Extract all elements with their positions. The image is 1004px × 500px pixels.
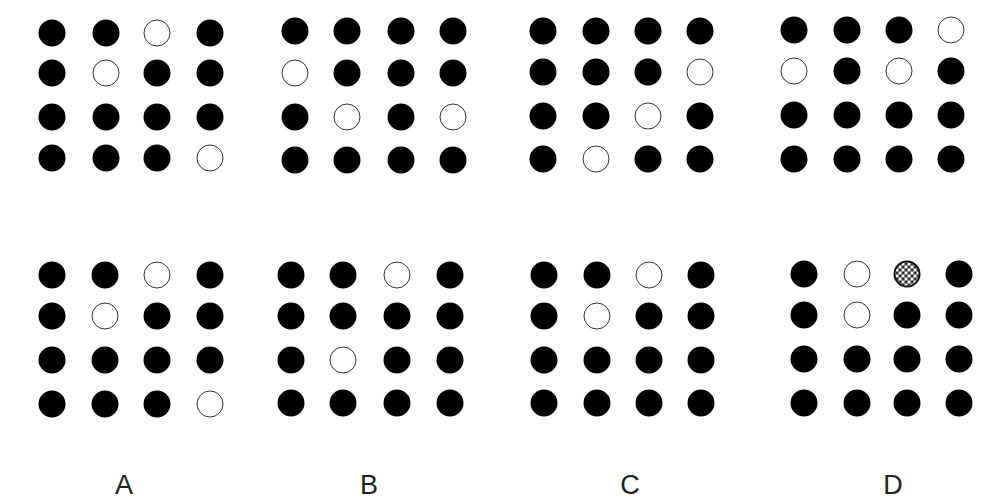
filled-circle-icon xyxy=(530,146,557,173)
filled-circle-icon xyxy=(834,146,861,173)
option-label-d[interactable]: D xyxy=(883,472,903,499)
filled-circle-icon xyxy=(781,146,808,173)
filled-circle-icon xyxy=(39,391,66,418)
filled-circle-icon xyxy=(39,20,66,47)
filled-circle-icon xyxy=(687,18,714,45)
hollow-circle-icon xyxy=(886,58,913,85)
filled-circle-icon xyxy=(894,390,921,417)
hollow-circle-icon xyxy=(93,60,120,87)
filled-circle-icon xyxy=(197,104,224,131)
filled-circle-icon xyxy=(584,347,611,374)
filled-circle-icon xyxy=(688,303,715,330)
filled-circle-icon xyxy=(584,390,611,417)
filled-circle-icon xyxy=(384,303,411,330)
filled-circle-icon xyxy=(844,390,871,417)
hollow-circle-icon xyxy=(197,145,224,172)
filled-circle-icon xyxy=(282,147,309,174)
filled-circle-icon xyxy=(781,17,808,44)
filled-circle-icon xyxy=(282,18,309,45)
filled-circle-icon xyxy=(440,60,467,87)
filled-circle-icon xyxy=(894,346,921,373)
filled-circle-icon xyxy=(197,347,224,374)
hollow-circle-icon xyxy=(282,60,309,87)
filled-circle-icon xyxy=(384,347,411,374)
filled-circle-icon xyxy=(39,145,66,172)
filled-circle-icon xyxy=(282,104,309,131)
filled-circle-icon xyxy=(530,18,557,45)
filled-circle-icon xyxy=(440,18,467,45)
filled-circle-icon xyxy=(687,146,714,173)
filled-circle-icon xyxy=(93,145,120,172)
filled-circle-icon xyxy=(946,390,973,417)
hollow-circle-icon xyxy=(781,58,808,85)
filled-circle-icon xyxy=(39,347,66,374)
filled-circle-icon xyxy=(531,303,558,330)
filled-circle-icon xyxy=(437,390,464,417)
filled-circle-icon xyxy=(688,347,715,374)
filled-circle-icon xyxy=(440,147,467,174)
filled-circle-icon xyxy=(197,262,224,289)
filled-circle-icon xyxy=(791,346,818,373)
filled-circle-icon xyxy=(384,390,411,417)
filled-circle-icon xyxy=(92,262,119,289)
option-label-b[interactable]: B xyxy=(360,472,378,499)
option-label-a[interactable]: A xyxy=(115,472,133,499)
filled-circle-icon xyxy=(197,60,224,87)
filled-circle-icon xyxy=(93,20,120,47)
filled-circle-icon xyxy=(39,303,66,330)
filled-circle-icon xyxy=(197,20,224,47)
filled-circle-icon xyxy=(39,262,66,289)
filled-circle-icon xyxy=(938,146,965,173)
filled-circle-icon xyxy=(583,103,610,130)
filled-circle-icon xyxy=(530,59,557,86)
filled-circle-icon xyxy=(388,104,415,131)
filled-circle-icon xyxy=(946,302,973,329)
hollow-circle-icon xyxy=(197,391,224,418)
filled-circle-icon xyxy=(330,303,357,330)
filled-circle-icon xyxy=(844,346,871,373)
hollow-circle-icon xyxy=(330,347,357,374)
filled-circle-icon xyxy=(531,390,558,417)
filled-circle-icon xyxy=(791,261,818,288)
filled-circle-icon xyxy=(583,18,610,45)
filled-circle-icon xyxy=(636,390,663,417)
filled-circle-icon xyxy=(330,390,357,417)
filled-circle-icon xyxy=(894,302,921,329)
filled-circle-icon xyxy=(388,147,415,174)
filled-circle-icon xyxy=(144,145,171,172)
filled-circle-icon xyxy=(584,262,611,289)
filled-circle-icon xyxy=(583,59,610,86)
filled-circle-icon xyxy=(938,102,965,129)
filled-circle-icon xyxy=(278,347,305,374)
filled-circle-icon xyxy=(531,347,558,374)
hollow-circle-icon xyxy=(334,104,361,131)
filled-circle-icon xyxy=(144,347,171,374)
filled-circle-icon xyxy=(437,262,464,289)
option-label-c[interactable]: C xyxy=(620,472,640,499)
filled-circle-icon xyxy=(781,102,808,129)
filled-circle-icon xyxy=(636,303,663,330)
hollow-circle-icon xyxy=(635,103,662,130)
filled-circle-icon xyxy=(144,391,171,418)
filled-circle-icon xyxy=(278,303,305,330)
filled-circle-icon xyxy=(834,58,861,85)
hollow-circle-icon xyxy=(144,20,171,47)
filled-circle-icon xyxy=(834,102,861,129)
filled-circle-icon xyxy=(530,103,557,130)
filled-circle-icon xyxy=(437,303,464,330)
filled-circle-icon xyxy=(39,104,66,131)
filled-circle-icon xyxy=(688,390,715,417)
filled-circle-icon xyxy=(92,347,119,374)
filled-circle-icon xyxy=(938,58,965,85)
filled-circle-icon xyxy=(144,303,171,330)
filled-circle-icon xyxy=(688,262,715,289)
filled-circle-icon xyxy=(334,147,361,174)
filled-circle-icon xyxy=(93,104,120,131)
hollow-circle-icon xyxy=(440,104,467,131)
filled-circle-icon xyxy=(92,391,119,418)
filled-circle-icon xyxy=(388,18,415,45)
filled-circle-icon xyxy=(946,261,973,288)
filled-circle-icon xyxy=(834,17,861,44)
filled-circle-icon xyxy=(635,59,662,86)
filled-circle-icon xyxy=(388,60,415,87)
